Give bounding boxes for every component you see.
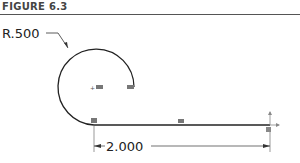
origin-y-arrow-icon	[268, 111, 272, 115]
relation-glyph-endpoint	[266, 127, 271, 132]
sketch-canvas: R.500 + 2.000	[0, 0, 300, 163]
center-point-icon: +	[90, 84, 95, 91]
radius-leader	[46, 33, 68, 48]
relation-glyph-center	[96, 85, 103, 89]
length-dimension-label: 2.000	[106, 139, 143, 154]
relation-glyph-horizontal	[178, 119, 184, 123]
relation-glyph-tangent	[91, 118, 97, 123]
leader-arrow-icon	[64, 42, 68, 48]
dimension-arrow-left-icon	[94, 144, 101, 148]
relation-glyph-arc-end	[127, 85, 134, 89]
origin-x-arrow-icon	[276, 123, 280, 127]
dimension-arrow-right-icon	[263, 144, 270, 148]
radius-dimension-label: R.500	[2, 26, 40, 41]
